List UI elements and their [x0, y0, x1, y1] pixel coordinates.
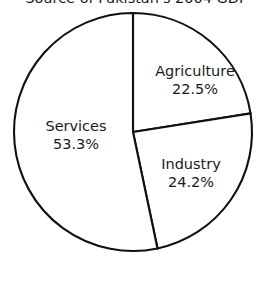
pie-label-services: Services 53.3% — [24, 118, 128, 153]
pie-label-services-name: Services — [24, 118, 128, 136]
pie-label-agriculture-name: Agriculture — [139, 63, 251, 81]
pie-label-industry: Industry 24.2% — [141, 156, 241, 191]
pie-label-services-value: 53.3% — [24, 136, 128, 154]
chart-canvas: Source of Pakistan's 2004 GDP Agricultur… — [0, 0, 273, 281]
pie-label-agriculture: Agriculture 22.5% — [139, 63, 251, 98]
pie-label-industry-name: Industry — [141, 156, 241, 174]
pie-label-agriculture-value: 22.5% — [139, 81, 251, 99]
pie-label-industry-value: 24.2% — [141, 174, 241, 192]
